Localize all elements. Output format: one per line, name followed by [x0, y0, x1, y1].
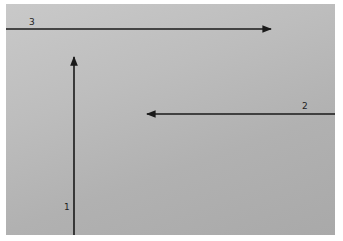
arrow-2-label: 2	[302, 102, 308, 111]
arrows-overlay	[0, 0, 343, 241]
arrow-3-label: 3	[29, 18, 35, 27]
arrow-1-label: 1	[64, 203, 70, 212]
